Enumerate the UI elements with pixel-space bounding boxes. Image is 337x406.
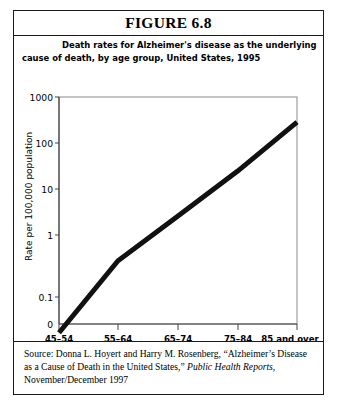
y-tick-label: 0.1 (38, 292, 53, 303)
source-text: Source: Donna L. Hoyert and Harry M. Ros… (24, 347, 313, 386)
y-tick-label: 1 (47, 230, 53, 241)
y-tick-label: 10 (41, 184, 53, 195)
y-axis-origin-label: 0 (47, 319, 53, 330)
source-note: Source: Donna L. Hoyert and Harry M. Ros… (14, 341, 323, 394)
chart-subtitle-line-2: cause of death, by age group, United Sta… (22, 52, 317, 65)
source-journal: Public Health Reports (187, 361, 273, 372)
y-tick-label: 100 (35, 138, 53, 149)
y-axis-title: Rate per 100,000 population (24, 132, 34, 261)
chart-subtitle-line-1: Death rates for Alzheimer's disease as t… (22, 39, 317, 52)
chart-subtitle: Death rates for Alzheimer's disease as t… (22, 39, 317, 64)
y-tick-label: 1000 (30, 92, 54, 103)
figure-card: FIGURE 6.8 Death rates for Alzheimer's d… (13, 10, 324, 395)
figure-header: FIGURE 6.8 (14, 11, 323, 36)
page-title: FIGURE 6.8 (125, 14, 212, 32)
chart-plot-area: 1000 100 10 1 0.1 0 Rate per 100,000 pop… (14, 71, 325, 356)
x-axis-ticks (59, 324, 297, 330)
line-chart-svg: 1000 100 10 1 0.1 0 Rate per 100,000 pop… (14, 71, 325, 356)
